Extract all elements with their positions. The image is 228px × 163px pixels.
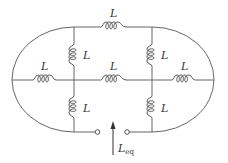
equivalent-symbol: L — [117, 142, 125, 155]
inductor-label: L — [40, 60, 48, 73]
inductor-coil-icon — [69, 96, 76, 118]
terminal-left — [95, 130, 100, 135]
equivalent-arrow — [111, 121, 116, 155]
inductor-label: L — [109, 60, 117, 73]
inductor-left-middle: L — [33, 60, 56, 82]
inductor-top: L — [101, 7, 127, 29]
inductor-circuit-diagram: L L L L L L L L Leq — [0, 0, 228, 163]
arrow-up-icon — [111, 121, 116, 129]
left-arc-wire — [12, 27, 74, 132]
equivalent-label: Leq — [117, 142, 134, 156]
inductor-label: L — [109, 7, 117, 20]
inductor-right-upper: L — [147, 44, 168, 66]
inductor-coil-icon — [33, 75, 56, 82]
inductor-coil-icon — [147, 96, 154, 118]
inductor-coil-icon — [101, 22, 127, 29]
inductor-right-lower: L — [147, 96, 168, 118]
inductor-right-middle: L — [172, 60, 195, 82]
inductor-coil-icon — [172, 75, 195, 82]
equivalent-subscript: eq — [125, 148, 134, 156]
inductor-left-lower: L — [69, 96, 90, 118]
inductor-label: L — [82, 49, 90, 62]
inductor-label: L — [160, 49, 168, 62]
inductor-label: L — [180, 60, 188, 73]
inductor-label: L — [160, 102, 168, 115]
inductor-label: L — [82, 102, 90, 115]
inductor-left-upper: L — [69, 44, 90, 66]
terminal-right — [125, 130, 130, 135]
inductor-coil-icon — [147, 44, 154, 66]
inductor-coil-icon — [101, 75, 127, 82]
inductor-coil-icon — [69, 44, 76, 66]
inductor-center-middle: L — [101, 60, 127, 82]
